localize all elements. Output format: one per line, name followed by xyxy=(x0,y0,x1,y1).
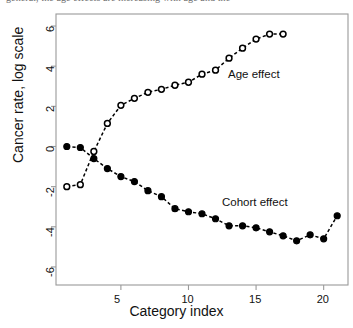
data-point xyxy=(226,223,232,229)
x-axis-tick-label-2: 15 xyxy=(249,293,261,305)
data-point xyxy=(321,236,327,242)
chart-figure: Cancer rate, log scale Category index Ag… xyxy=(0,0,353,328)
data-point xyxy=(253,36,259,42)
data-point xyxy=(186,79,192,85)
data-point xyxy=(64,184,70,190)
data-point xyxy=(213,216,219,222)
data-point xyxy=(145,89,151,95)
data-point xyxy=(213,67,219,73)
data-point xyxy=(77,144,83,150)
data-point xyxy=(199,71,205,77)
series-annotation-cohort-effect: Cohort effect xyxy=(222,196,288,208)
x-axis-tick-label-3: 20 xyxy=(317,293,329,305)
data-point xyxy=(132,95,138,101)
x-axis-label: Category index xyxy=(0,303,353,319)
data-point xyxy=(226,55,232,61)
data-point xyxy=(91,149,97,155)
y-axis-tick-label-3: 0 xyxy=(44,146,56,152)
data-point xyxy=(280,233,286,239)
y-axis-label: Cancer rate, log scale xyxy=(10,27,26,163)
data-point xyxy=(64,143,70,149)
data-point xyxy=(131,179,137,185)
data-point xyxy=(172,206,178,212)
data-point xyxy=(185,209,191,215)
data-point xyxy=(118,102,124,108)
data-point xyxy=(267,229,273,235)
data-point xyxy=(334,213,340,219)
data-point xyxy=(199,211,205,217)
series-line xyxy=(67,146,337,240)
y-axis-tick-label-1: -4 xyxy=(44,227,56,237)
data-point xyxy=(240,45,246,51)
y-axis-tick-label-4: 2 xyxy=(44,106,56,112)
series-annotation-age-effect: Age effect xyxy=(228,68,280,80)
chart-plot-area xyxy=(0,0,353,328)
data-point xyxy=(240,223,246,229)
data-point xyxy=(77,182,83,188)
data-point xyxy=(280,31,286,37)
data-point xyxy=(104,121,110,127)
data-point xyxy=(253,225,259,231)
y-axis-tick-label-2: -2 xyxy=(44,187,56,197)
data-point xyxy=(145,188,151,194)
x-axis-tick-label-0: 5 xyxy=(114,293,120,305)
y-axis-tick-label-6: 6 xyxy=(44,26,56,32)
data-point xyxy=(172,82,178,88)
data-point xyxy=(104,166,110,172)
data-point xyxy=(91,156,97,162)
data-point xyxy=(158,194,164,200)
plot-border xyxy=(56,14,348,285)
data-point xyxy=(294,238,300,244)
series-cohort-effect xyxy=(64,143,340,243)
y-axis-tick-label-5: 4 xyxy=(44,66,56,72)
x-axis-tick-label-1: 10 xyxy=(181,293,193,305)
series-age-effect xyxy=(64,31,286,189)
data-point xyxy=(118,174,124,180)
data-point xyxy=(307,232,313,238)
data-point xyxy=(159,86,165,92)
data-point xyxy=(267,31,273,37)
y-axis-tick-label-0: -6 xyxy=(44,267,56,277)
series-line xyxy=(67,34,283,187)
